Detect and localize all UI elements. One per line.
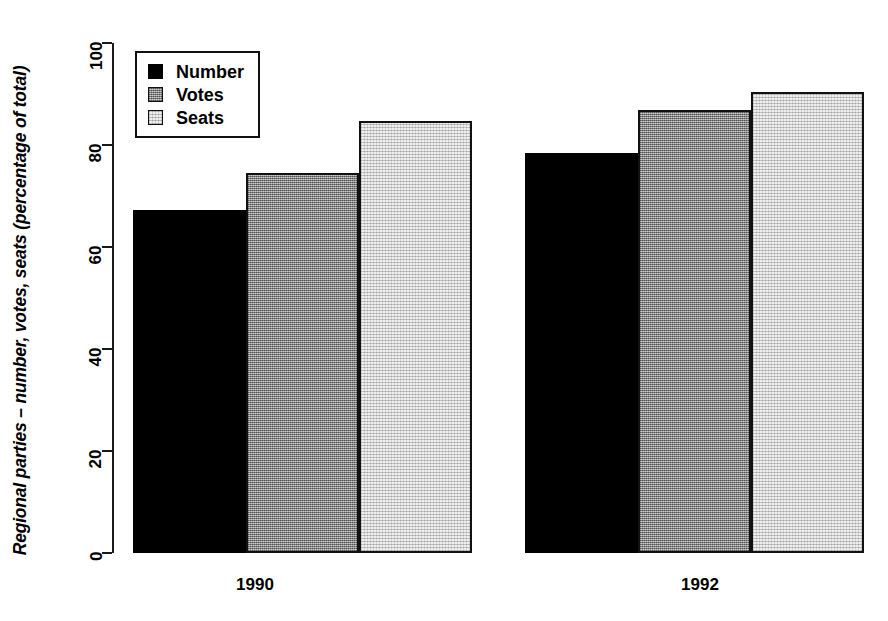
legend-swatch-seats-icon [148, 110, 163, 125]
legend: NumberVotesSeats [135, 51, 260, 138]
legend-item-votes: Votes [148, 83, 244, 106]
y-axis-tick-label-wrap: 100 [0, 33, 96, 53]
bar-chart: Regional parties – number, votes, seats … [0, 0, 888, 621]
x-axis-label-1992: 1992 [681, 575, 719, 595]
bar-1990-seats [359, 121, 472, 553]
y-axis-tick-label-wrap: 0 [0, 543, 96, 563]
legend-swatch-votes-icon [148, 87, 163, 102]
x-axis-label-1990: 1990 [236, 575, 274, 595]
legend-swatch-number-icon [148, 64, 163, 79]
y-axis-tick-label-wrap: 20 [0, 441, 96, 461]
legend-label: Votes [176, 86, 224, 104]
y-axis-tick-label: 40 [88, 348, 105, 367]
y-axis-tick-label: 100 [88, 42, 105, 70]
legend-label: Seats [176, 109, 224, 127]
bar-1992-number [525, 153, 638, 553]
y-axis-tick-label: 20 [88, 450, 105, 469]
legend-label: Number [176, 63, 244, 81]
bar-1990-number [133, 210, 246, 553]
y-axis-label: Regional parties – number, votes, seats … [0, 0, 40, 621]
legend-item-number: Number [148, 60, 244, 83]
legend-item-seats: Seats [148, 106, 244, 129]
y-axis-tick-label: 80 [88, 144, 105, 163]
y-axis-tick-label-wrap: 40 [0, 339, 96, 359]
y-axis-tick-label: 0 [88, 552, 105, 561]
y-axis-tick-label-wrap: 60 [0, 237, 96, 257]
bar-1990-votes [246, 173, 359, 553]
y-axis-tick-label: 60 [88, 246, 105, 265]
bar-1992-seats [751, 92, 864, 553]
bar-1992-votes [638, 110, 751, 553]
y-axis-tick-label-wrap: 80 [0, 135, 96, 155]
